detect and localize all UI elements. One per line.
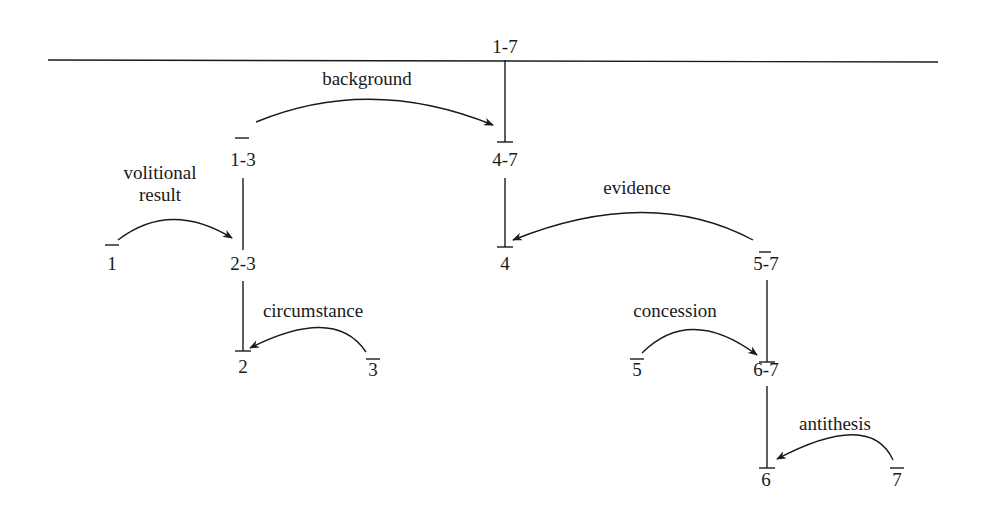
node-2: 2 [238, 357, 248, 376]
node-1: 1 [107, 254, 117, 273]
node-7: 7 [892, 470, 902, 489]
arrow-background [256, 99, 493, 125]
arrow-circumstance [250, 327, 366, 352]
root-span-line [48, 60, 938, 62]
arrow-evidence [513, 213, 753, 241]
node-3: 3 [368, 360, 378, 379]
arrow-concession [642, 329, 757, 355]
node-6-7: 6-7 [753, 360, 778, 379]
node-5-7: 5-7 [753, 254, 778, 273]
relation-label-concession: concession [633, 300, 716, 322]
relation-label-circumstance: circumstance [263, 300, 363, 322]
arrow-antithesis [777, 435, 893, 460]
relation-label-evidence: evidence [603, 177, 671, 199]
node-4: 4 [500, 254, 510, 273]
relation-label-result: result [124, 184, 197, 206]
arrow-volitional-result [118, 219, 232, 240]
relation-label-background: background [322, 68, 412, 90]
node-1-7: 1-7 [492, 37, 517, 56]
node-5: 5 [632, 360, 642, 379]
relation-label-antithesis: antithesis [799, 413, 871, 435]
node-4-7: 4-7 [492, 150, 517, 169]
node-1-3: 1-3 [230, 150, 255, 169]
node-2-3: 2-3 [230, 254, 255, 273]
relation-label-volitional: volitional [124, 162, 197, 184]
node-6: 6 [761, 470, 771, 489]
relation-label-volitional-result: volitional result [124, 162, 197, 206]
